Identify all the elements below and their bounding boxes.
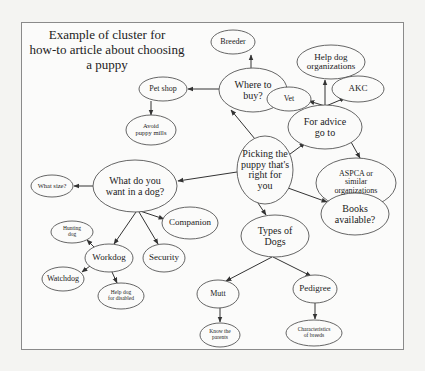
node-label-watchdog: Watchdog [47,275,79,283]
node-label-vet: Vet [284,95,295,103]
node-label-what-want: What do youwant in a dog? [106,176,165,197]
node-label-line: go to [304,127,347,138]
node-label-line: Where to [235,80,272,91]
node-label-help-dog-disabled: Help dogfor disabled [108,290,134,302]
node-label-line: Vet [284,95,295,103]
node-label-akc: AKC [348,84,367,93]
node-label-characteristics: Characteristicsof breeds [298,327,331,339]
edge-picking-to-where-to-buy [231,110,255,139]
node-label-avoid-puppy-mills: Avoidpuppy mills [136,123,167,137]
node-label-line: For advice [304,117,347,128]
node-label-line: Watchdog [47,275,79,283]
node-label-line: What do you [106,176,165,187]
node-label-line: Types of [258,226,293,237]
node-label-line: buy? [235,90,272,101]
node-label-picking: Picking thepuppy that'sright foryou [241,149,289,191]
node-label-types-of-dogs: Types ofDogs [258,226,293,247]
node-label-line: Pedigree [299,284,331,293]
node-label-line: Workdog [92,253,125,262]
edge-picking-to-types-of-dogs [258,203,266,215]
node-label-what-size: What size? [38,183,67,190]
edge-types-of-dogs-to-mutt [226,257,272,281]
node-label-line: you [241,181,289,192]
node-label-pedigree: Pedigree [299,284,331,293]
node-label-breeder: Breeder [220,38,245,46]
node-label-companion: Companion [169,218,211,227]
edge-what-want-to-companion [140,211,164,219]
node-label-line: Companion [169,218,211,227]
node-label-line: Dogs [258,236,293,247]
node-label-pet-shop: Pet shop [149,85,176,93]
node-label-line: organizations [307,62,355,71]
edge-what-want-to-workdog [114,212,136,244]
node-label-line: AKC [348,84,367,93]
node-label-line: right for [241,170,289,181]
node-label-line: Breeder [220,38,245,46]
edge-workdog-to-help-dog-disabled [112,272,117,283]
node-label-line: parents [209,335,231,341]
node-label-books: Booksavailable? [335,204,376,225]
node-label-line: Picking the [241,149,289,160]
node-label-where-to-buy: Where tobuy? [235,80,272,101]
node-label-security: Security [149,253,179,262]
node-label-line: dog [63,232,81,238]
node-label-line: Mutt [210,290,226,298]
node-label-line: Books [335,204,376,215]
node-label-workdog: Workdog [92,253,125,262]
node-label-aspca: ASPCA orsimilarorganizations [335,170,378,195]
node-label-line: What size? [38,183,67,190]
node-label-line: Security [149,253,179,262]
edge-for-advice-to-aspca [351,142,360,158]
node-label-line: organizations [335,187,378,195]
node-label-help-dog-orgs: Help dogorganizations [307,53,355,72]
node-label-mutt: Mutt [210,290,226,298]
node-label-line: for disabled [108,296,134,302]
edge-workdog-to-watchdog [82,266,90,272]
edge-what-want-to-security [139,212,158,244]
node-label-know-parents: Know theparents [209,329,231,341]
node-label-line: available? [335,214,376,225]
edge-picking-to-what-want [178,172,237,181]
node-label-line: puppy mills [136,130,167,137]
node-label-line: Pet shop [149,85,176,93]
node-label-line: of breeds [298,333,331,339]
node-label-for-advice: For advicego to [304,117,347,138]
node-label-hunting-dog: Huntingdog [63,226,81,238]
edge-types-of-dogs-to-pedigree [273,257,311,276]
node-label-line: want in a dog? [106,186,165,197]
